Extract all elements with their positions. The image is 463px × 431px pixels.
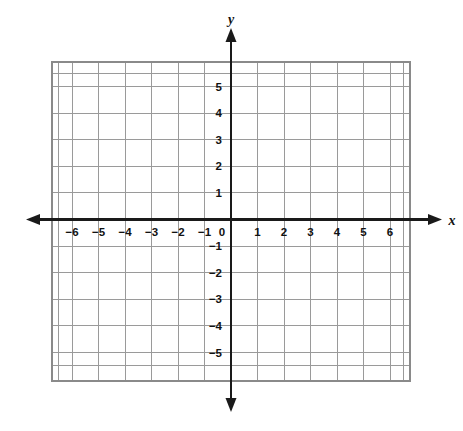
y-tick-label: −3: [209, 293, 222, 305]
x-tick-label: 4: [334, 226, 341, 238]
y-axis-name-label: y: [226, 12, 235, 27]
y-tick-label: −2: [209, 267, 222, 279]
x-tick-label: 5: [360, 226, 367, 238]
x-tick-label: 3: [307, 226, 313, 238]
x-axis-name-label: x: [448, 213, 456, 228]
y-tick-label: 4: [216, 107, 223, 119]
x-tick-label: −3: [145, 226, 158, 238]
y-tick-label: −5: [209, 347, 223, 359]
y-tick-label: −1: [209, 240, 223, 252]
y-tick-label: −4: [209, 320, 223, 332]
origin-label: 0: [219, 226, 225, 238]
x-tick-label: 2: [281, 226, 287, 238]
x-tick-label: −5: [92, 226, 106, 238]
x-tick-label: −4: [118, 226, 132, 238]
coordinate-grid-svg: −6−5−4−3−2−1123456 54321−1−2−3−4−5 0 y x: [0, 0, 463, 431]
x-tick-label: 6: [387, 226, 393, 238]
x-tick-label: 1: [254, 226, 261, 238]
x-tick-label: −2: [171, 226, 184, 238]
x-tick-label: −6: [65, 226, 78, 238]
y-tick-label: 5: [216, 81, 223, 93]
y-tick-label: 1: [216, 187, 223, 199]
coordinate-plane-graph: −6−5−4−3−2−1123456 54321−1−2−3−4−5 0 y x: [0, 0, 463, 431]
y-tick-label: 2: [216, 160, 222, 172]
x-tick-label: −1: [198, 226, 212, 238]
y-tick-label: 3: [216, 134, 222, 146]
